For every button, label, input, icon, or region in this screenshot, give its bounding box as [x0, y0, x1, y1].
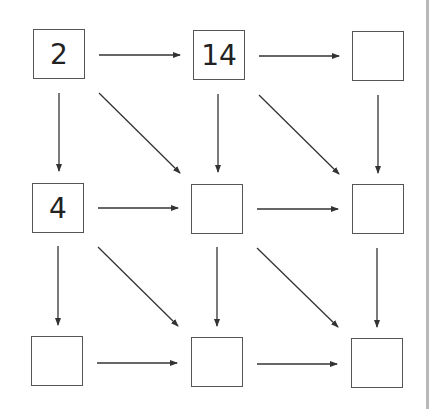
cell-r1c1 [191, 184, 243, 234]
cell-r1c0: 4 [32, 183, 84, 233]
arrow-diag-r0c0 [99, 93, 180, 173]
cell-r2c0 [31, 336, 83, 386]
cell-r1c2 [352, 184, 404, 234]
arrow-diag-r0c1 [259, 95, 339, 174]
cell-r0c1: 14 [193, 30, 245, 80]
cell-r2c2 [351, 338, 403, 388]
arrow-diag-r1c1 [257, 248, 338, 327]
cell-r0c0: 2 [33, 29, 85, 79]
cell-r0c2 [352, 31, 404, 81]
cell-r2c1 [191, 337, 243, 387]
arrow-diag-r1c0 [98, 247, 178, 326]
